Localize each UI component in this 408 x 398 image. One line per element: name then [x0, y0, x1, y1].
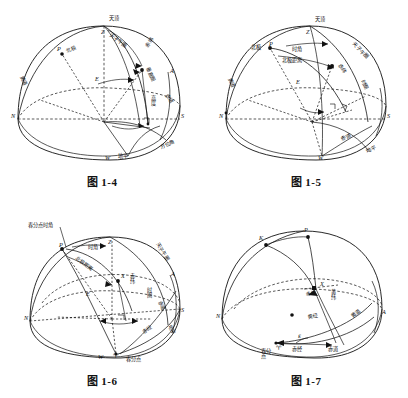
right-side-arc — [372, 281, 378, 333]
label-east-letter: E — [296, 79, 300, 85]
label-obliquity-symbol: ε — [298, 333, 301, 339]
label-south-letter: S — [181, 113, 184, 119]
center-right-dashed — [312, 96, 366, 122]
hour-angle-arrowhead — [322, 41, 328, 47]
label-point-a-letter: A — [171, 271, 175, 277]
meridian-right — [310, 26, 368, 122]
w-line-2 — [104, 122, 150, 128]
label-equinox-hour-angle: 春分点时角 — [28, 223, 53, 228]
label-south-letter: S — [387, 113, 390, 119]
label-horizon: 地平 — [118, 154, 128, 159]
figure-grid: Z 天顶 P 北极 N S E W A 黄道 天子午圈 赤纬 垂直圈 高度 赤道… — [0, 0, 408, 398]
label-zenith-letter: Z — [108, 239, 111, 245]
figure-1-6-drawing — [0, 199, 204, 398]
label-west-letter: W — [98, 354, 103, 360]
label-star-letter: X — [320, 281, 324, 287]
figure-1-5: Z 天顶 P 北极 N S E W 时角 北极距离 黄道 天子午圈 赤纬 时圈 … — [204, 0, 408, 199]
right-angle-mark-2 — [330, 104, 335, 109]
label-zenith: 天顶 — [109, 16, 119, 21]
label-north-letter: N — [219, 113, 223, 119]
label-pole-letter: P — [59, 242, 63, 248]
label-hour-circle: 时圈 — [146, 287, 151, 296]
left-great-circle — [222, 231, 304, 319]
equator-front-arc — [104, 122, 166, 140]
horizon-front — [30, 309, 180, 357]
celestial-sphere-outline — [30, 237, 180, 358]
label-north-letter: N — [216, 313, 220, 319]
z-to-w-arc — [310, 26, 323, 156]
north-marker — [225, 112, 228, 115]
figure-1-4-caption: 图 1-4 — [0, 173, 204, 189]
label-celestial-pole-letter: P — [304, 227, 308, 233]
figure-1-6-caption: 图 1-6 — [0, 372, 204, 388]
center-angle-arrowhead — [318, 109, 324, 115]
center-left-dashed — [56, 317, 112, 319]
center-left-dashed — [40, 100, 104, 122]
label-altitude: 高度 — [150, 95, 155, 104]
center-to-w-dashed — [312, 122, 322, 156]
label-zenith: 天顶 — [315, 17, 325, 22]
star-marker — [116, 279, 120, 283]
center-to-pole-dashed — [62, 249, 112, 319]
figure-1-6: 春分点时角 Z P X N S E W A ♈ 时角 北极距离 天子午圈 赤纬 … — [0, 199, 204, 398]
hour-circle — [308, 237, 316, 289]
label-point-a-letter: A — [382, 309, 386, 315]
center-marker — [290, 313, 294, 317]
star-marker — [140, 68, 144, 72]
label-hour-angle: 时角 — [292, 47, 302, 52]
horizon-back — [226, 88, 386, 119]
label-vernal-equinox: 春分点 — [261, 349, 273, 360]
equator-front — [276, 317, 374, 344]
label-zenith-letter: Z — [306, 29, 309, 35]
right-side-arc — [160, 72, 170, 140]
label-zenith-letter: Z — [101, 29, 104, 35]
celestial-pole-marker — [306, 235, 310, 239]
star-marker — [330, 64, 334, 68]
pole-marker — [60, 52, 64, 56]
label-east-letter: E — [86, 291, 90, 297]
altitude-drop-line — [142, 70, 148, 124]
figure-1-4: Z 天顶 P 北极 N S E W A 黄道 天子午圈 赤纬 垂直圈 高度 赤道… — [0, 0, 204, 199]
w-arc — [128, 126, 160, 156]
label-polar-distance: 北极距离 — [282, 58, 302, 63]
figure-1-5-caption: 图 1-5 — [204, 173, 408, 189]
ecliptic-pole-marker — [264, 243, 268, 247]
label-ecliptic-pole-letter: K — [259, 235, 263, 241]
label-pole-letter: P — [57, 46, 61, 52]
figure-1-7-caption: 图 1-7 — [204, 372, 408, 388]
label-pole-letter: P — [269, 41, 273, 47]
hour-angle-arrowhead — [100, 243, 106, 249]
label-point-a-letter: A — [170, 68, 174, 74]
horizon-front — [222, 309, 382, 357]
label-declination: 赤纬 — [306, 290, 316, 296]
label-vernal-equinox: 春分点 — [126, 357, 141, 362]
horizon-foot-marker — [147, 123, 150, 126]
label-north-pole: 北极 — [251, 45, 261, 50]
label-star-letter: X — [121, 273, 125, 279]
k-to-p-arc — [266, 237, 308, 245]
label-aries-symbol: ♈ — [276, 345, 281, 351]
label-aries-symbol: ♈ — [113, 353, 118, 359]
label-west-letter: W — [318, 155, 323, 161]
center-to-star-dashed — [104, 70, 142, 122]
label-north-letter: N — [11, 113, 15, 119]
label-equator: 赤道 — [328, 347, 338, 352]
label-right-ascension: 赤经 — [292, 347, 302, 352]
label-east-letter: E — [95, 76, 99, 82]
label-hour-angle: 时角 — [88, 245, 98, 250]
label-ecliptic-latitude: 黄纬 — [330, 289, 335, 298]
ecliptic-meridian — [266, 245, 314, 289]
label-west-letter: W — [105, 155, 110, 161]
label-south-letter: S — [181, 307, 184, 313]
label-north-letter: N — [24, 315, 28, 321]
celestial-sphere-outline — [226, 26, 386, 160]
figure-1-7: K P X N A ♈ 赤纬 黄纬 黄经 黄道 赤经 赤道 ε 春分点 图 1-… — [204, 199, 408, 398]
center-left-dashed — [248, 100, 312, 122]
label-declination: 赤纬 — [129, 273, 134, 282]
